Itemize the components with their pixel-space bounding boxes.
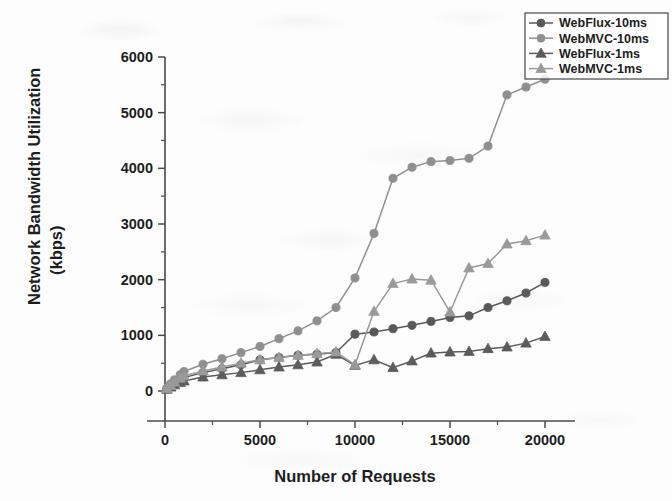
data-point-marker [370, 328, 378, 336]
data-point-marker [484, 303, 492, 311]
y-tick-label: 0 [145, 383, 153, 399]
data-point-marker [522, 289, 530, 297]
data-point-marker [540, 230, 550, 239]
x-tick-label: 5000 [244, 432, 276, 448]
data-point-marker [313, 317, 321, 325]
data-point-marker [484, 142, 492, 150]
data-point-marker [256, 342, 264, 350]
data-point-marker [370, 229, 378, 237]
legend-label: WebFlux-10ms [559, 16, 647, 30]
y-tick-label: 5000 [121, 105, 153, 121]
data-point-marker [445, 306, 455, 315]
x-tick-label: 15000 [430, 432, 470, 448]
y-tick-label: 1000 [121, 327, 153, 343]
data-point-marker [369, 354, 379, 363]
data-point-marker [332, 303, 340, 311]
data-series [162, 75, 551, 393]
y-tick-label: 6000 [121, 49, 153, 65]
data-point-marker [503, 297, 511, 305]
data-point-marker [237, 348, 245, 356]
x-tick-label: 20000 [525, 432, 565, 448]
data-point-marker [503, 91, 511, 99]
x-tick-label: 0 [161, 432, 169, 448]
series-line [167, 79, 545, 388]
data-point-marker [537, 19, 545, 27]
legend-label: WebMVC-10ms [559, 32, 649, 46]
data-point-marker [389, 325, 397, 333]
data-point-marker [465, 312, 473, 320]
series-1 [163, 75, 549, 392]
x-tick-label: 10000 [335, 432, 375, 448]
data-point-marker [351, 330, 359, 338]
data-point-marker [427, 317, 435, 325]
y-tick-label: 2000 [121, 272, 153, 288]
x-axis-title: Number of Requests [274, 467, 435, 485]
data-point-marker [294, 327, 302, 335]
data-point-marker [408, 321, 416, 329]
axis-ticks [158, 57, 545, 428]
y-axis-title-line1: Network Bandwidth Utilization [25, 68, 43, 305]
legend-label: WebFlux-1ms [559, 47, 640, 61]
chart-legend[interactable]: WebFlux-10msWebMVC-10msWebFlux-1msWebMVC… [525, 13, 668, 79]
data-point-marker [407, 274, 417, 283]
data-point-marker [522, 83, 530, 91]
data-point-marker [465, 154, 473, 162]
y-tick-label: 4000 [121, 160, 153, 176]
data-point-marker [275, 335, 283, 343]
y-tick-label: 3000 [121, 216, 153, 232]
data-point-marker [541, 278, 549, 286]
data-point-marker [537, 34, 545, 42]
data-point-marker [446, 156, 454, 164]
axis-tick-labels: 0100020003000400050006000050001000015000… [121, 49, 565, 448]
series-3 [162, 230, 551, 393]
chart-svg: Network Bandwidth Utilization (kbps) Num… [0, 0, 672, 501]
data-point-marker [427, 158, 435, 166]
axes [147, 57, 575, 421]
data-point-marker [351, 274, 359, 282]
data-point-marker [389, 174, 397, 182]
legend-label: WebMVC-1ms [559, 62, 642, 76]
y-axis-title-line2: (kbps) [47, 226, 65, 276]
chart-figure: Network Bandwidth Utilization (kbps) Num… [0, 0, 672, 501]
data-point-marker [408, 163, 416, 171]
data-point-marker [540, 331, 550, 340]
y-axis-title: Network Bandwidth Utilization (kbps) [25, 68, 65, 305]
